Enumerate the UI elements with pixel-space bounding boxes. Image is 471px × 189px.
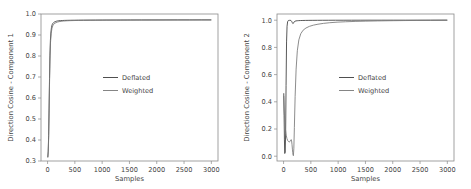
x-ticklabel: 2000 [148,166,165,174]
y-ticklabel: 0.7 [26,73,37,81]
chart-svg-component-1: 0.3 0.4 0.5 0.6 0.7 0.8 0.9 1.0 Directio… [0,0,236,189]
y-axis-component-2: 0.0 0.2 0.4 0.6 0.8 1.0 Direction Cosine… [243,17,277,161]
legend-label-weighted: Weighted [358,87,389,95]
x-ticklabel: 500 [69,166,82,174]
y-ticklabel: 0.6 [26,94,37,102]
chart-svg-component-2: 0.0 0.2 0.4 0.6 0.8 1.0 Direction Cosine… [236,0,471,189]
y-ticklabel: 0.0 [261,153,272,161]
x-ticklabel: 3000 [438,166,455,174]
x-tickmarks [48,161,212,164]
x-ticklabel: 2000 [384,166,401,174]
legend-label-deflated: Deflated [358,74,386,82]
x-ticklabel: 1000 [329,166,346,174]
x-axis-component-2: 0 500 1000 1500 2000 2500 3000 Samples [281,161,455,183]
y-ticklabel: 0.6 [261,71,272,79]
y-ticklabel: 1.0 [261,17,272,25]
y-ticklabel: 0.2 [261,125,272,133]
chart-panel-component-2: 0.0 0.2 0.4 0.6 0.8 1.0 Direction Cosine… [236,0,471,189]
y-ticklabel: 0.8 [261,44,272,52]
x-ticklabel: 1500 [357,166,374,174]
figure-canvas: 0.3 0.4 0.5 0.6 0.7 0.8 0.9 1.0 Directio… [0,0,471,189]
x-ticklabel: 2500 [176,166,193,174]
y-ticklabel: 0.4 [261,98,272,106]
y-ticklabel: 0.3 [26,157,37,165]
legend-label-weighted: Weighted [122,87,153,95]
y-tickmarks [38,14,41,161]
y-axis-title: Direction Cosine - Component 2 [243,33,251,141]
legend-component-1: Deflated Weighted [103,74,153,95]
x-axis-component-1: 0 500 1000 1500 2000 2500 3000 Samples [45,161,219,183]
x-axis-title: Samples [350,175,379,183]
y-ticklabel: 1.0 [26,10,37,18]
x-ticklabel: 2500 [411,166,428,174]
y-tickmarks [274,20,277,156]
legend-component-2: Deflated Weighted [339,74,389,95]
x-ticklabel: 500 [304,166,317,174]
y-ticklabel: 0.4 [26,136,37,144]
y-ticklabel: 0.5 [26,115,37,123]
x-ticklabel: 1500 [121,166,138,174]
x-tickmarks [283,161,447,164]
x-ticklabel: 1000 [94,166,111,174]
y-ticklabel: 0.9 [26,31,37,39]
x-ticklabel: 0 [281,166,285,174]
x-ticklabel: 3000 [203,166,220,174]
y-axis-title: Direction Cosine - Component 1 [7,33,15,141]
chart-panel-component-1: 0.3 0.4 0.5 0.6 0.7 0.8 0.9 1.0 Directio… [0,0,236,189]
legend-label-deflated: Deflated [122,74,150,82]
x-ticklabel: 0 [45,166,49,174]
x-axis-title: Samples [115,175,144,183]
y-axis-component-1: 0.3 0.4 0.5 0.6 0.7 0.8 0.9 1.0 Directio… [7,10,41,165]
y-ticklabel: 0.8 [26,52,37,60]
